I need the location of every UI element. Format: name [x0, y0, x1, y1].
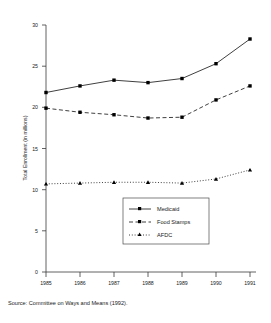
y-axis-title: Total Enrollment (in millions) — [22, 115, 28, 180]
series-food-stamps — [44, 84, 251, 120]
series-line — [46, 39, 250, 93]
x-tick-label: 1989 — [176, 280, 188, 286]
x-axis-ticks — [46, 272, 250, 277]
data-point-triangle-icon — [78, 181, 82, 185]
y-tick-label: 5 — [35, 228, 38, 234]
y-axis-tick-labels: 30 25 20 15 10 5 0 — [32, 22, 38, 275]
data-point-square-icon — [146, 81, 149, 84]
legend-marker-square-icon — [138, 220, 141, 223]
x-tick-label: 1987 — [108, 280, 120, 286]
series-line — [46, 86, 250, 118]
chart-legend: Medicaid Food Stamps AFDC — [123, 198, 209, 244]
data-point-triangle-icon — [112, 180, 116, 184]
data-point-square-icon — [248, 37, 251, 40]
chart-figure: Total Enrollment (in millions) 30 25 20 … — [0, 0, 271, 323]
x-tick-label: 1986 — [74, 280, 86, 286]
x-axis-tick-labels: 1985 1986 1987 1988 1989 1990 1991 — [40, 280, 256, 286]
data-point-square-icon — [44, 106, 47, 109]
data-point-square-icon — [180, 77, 183, 80]
data-point-square-icon — [248, 84, 251, 87]
x-tick-label: 1988 — [142, 280, 154, 286]
data-point-triangle-icon — [248, 168, 252, 172]
line-chart: Total Enrollment (in millions) 30 25 20 … — [0, 0, 271, 323]
data-series-layer — [44, 37, 252, 185]
data-point-square-icon — [78, 111, 81, 114]
legend-label-afdc: AFDC — [157, 232, 172, 238]
data-point-square-icon — [44, 91, 47, 94]
series-medicaid — [44, 37, 251, 94]
x-tick-label: 1985 — [40, 280, 52, 286]
y-tick-label: 30 — [32, 22, 38, 28]
y-axis-ticks — [42, 25, 46, 272]
data-point-square-icon — [214, 98, 217, 101]
data-point-square-icon — [112, 113, 115, 116]
x-tick-label: 1990 — [210, 280, 222, 286]
y-tick-label: 15 — [32, 146, 38, 152]
source-caption: Source: Committee on Ways and Means (199… — [8, 300, 128, 306]
legend-label-medicaid: Medicaid — [157, 206, 179, 212]
data-point-square-icon — [146, 116, 149, 119]
data-point-square-icon — [180, 116, 183, 119]
y-tick-label: 25 — [32, 63, 38, 69]
y-tick-label: 10 — [32, 187, 38, 193]
legend-marker-square-icon — [138, 207, 141, 210]
data-point-square-icon — [112, 78, 115, 81]
data-point-square-icon — [78, 84, 81, 87]
y-tick-label: 0 — [35, 269, 38, 275]
x-tick-label: 1991 — [244, 280, 256, 286]
y-tick-label: 20 — [32, 104, 38, 110]
data-point-triangle-icon — [44, 182, 48, 186]
data-point-square-icon — [214, 62, 217, 65]
series-afdc — [44, 168, 252, 186]
data-point-triangle-icon — [146, 180, 150, 184]
legend-label-food-stamps: Food Stamps — [157, 219, 190, 225]
